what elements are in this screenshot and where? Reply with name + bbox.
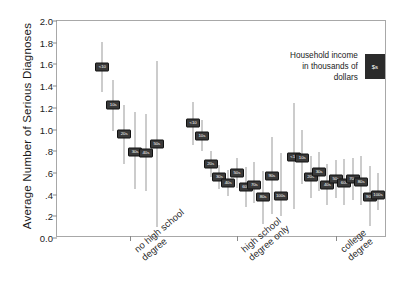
data-point-marker[interactable]: <10 xyxy=(95,62,109,71)
y-axis-tick-label: 1.2 xyxy=(40,102,53,113)
y-axis-tick-mark xyxy=(53,216,57,217)
data-point-marker[interactable]: 50s xyxy=(150,139,164,148)
y-axis-tick-mark xyxy=(53,172,57,173)
y-axis-tick-mark xyxy=(53,42,57,43)
legend-label: Household income in thousands of dollars xyxy=(279,50,358,83)
data-point-marker[interactable]: 40s xyxy=(221,178,235,187)
y-axis-tick-label: 1.0 xyxy=(40,124,53,135)
plot-area: Household income in thousands of dollars… xyxy=(56,20,386,237)
data-point-marker[interactable]: 80s xyxy=(354,177,368,186)
y-axis-tick-mark xyxy=(53,21,57,22)
y-axis-tick-mark xyxy=(53,64,57,65)
data-point-marker[interactable]: 10s xyxy=(195,132,209,141)
x-axis-tick-mark xyxy=(130,236,131,241)
x-axis-group-label: no high school degree xyxy=(132,207,193,263)
data-point-marker[interactable]: 100s xyxy=(274,191,288,200)
data-point-marker[interactable]: 20s xyxy=(117,129,131,138)
data-point-marker[interactable]: 90s xyxy=(265,172,279,181)
x-axis-tick-mark xyxy=(237,236,238,241)
y-axis-tick-mark xyxy=(53,129,57,130)
x-axis-tick-mark xyxy=(336,236,337,241)
y-axis-title: Average Number of Serious Diagnoses xyxy=(21,1,33,251)
y-axis-tick-label: 2.0 xyxy=(40,16,53,27)
y-axis-tick-mark xyxy=(53,238,57,239)
y-axis-tick-label: 1.6 xyxy=(40,59,53,70)
data-point-marker[interactable]: <10 xyxy=(186,118,200,127)
legend-swatch-label: $s xyxy=(372,64,378,70)
chart-figure: Average Number of Serious Diagnoses Hous… xyxy=(0,0,396,304)
y-axis-tick-label: 0.0 xyxy=(40,233,53,244)
legend-swatch: $s xyxy=(365,54,385,79)
x-axis-group-label: college degree xyxy=(338,216,388,263)
data-point-marker[interactable]: 10s xyxy=(106,100,120,109)
data-point-marker[interactable]: 20s xyxy=(204,160,218,169)
chart-legend: Household income in thousands of dollars… xyxy=(279,50,385,83)
y-axis-tick-label: 1.4 xyxy=(40,81,53,92)
y-axis-tick-mark xyxy=(53,151,57,152)
data-point-marker[interactable]: 30s xyxy=(312,167,326,176)
data-point-marker[interactable]: 10s xyxy=(295,153,309,162)
y-axis-tick-label: 1.8 xyxy=(40,37,53,48)
error-bar xyxy=(280,153,281,216)
data-point-marker[interactable]: 100s xyxy=(371,190,385,199)
data-point-marker[interactable]: 50s xyxy=(230,168,244,177)
x-axis-group-label: high school degree only xyxy=(239,214,291,263)
data-point-marker[interactable]: 80s xyxy=(256,192,270,201)
y-axis-tick-mark xyxy=(53,86,57,87)
y-axis-tick-label: .6 xyxy=(45,167,53,178)
y-axis-tick-label: .4 xyxy=(45,189,53,200)
y-axis-tick-label: .2 xyxy=(45,211,53,222)
data-point-marker[interactable]: 40s xyxy=(139,149,153,158)
data-point-marker[interactable]: 70s xyxy=(247,180,261,189)
y-axis-tick-mark xyxy=(53,107,57,108)
y-axis-tick-label: .8 xyxy=(45,146,53,157)
y-axis-tick-mark xyxy=(53,194,57,195)
